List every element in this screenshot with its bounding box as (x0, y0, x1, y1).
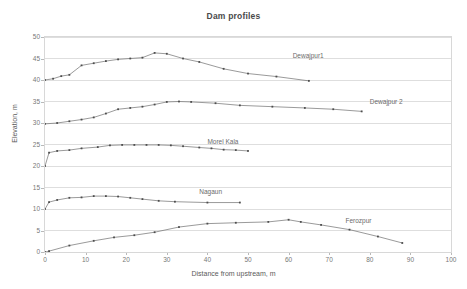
data-point-marker (288, 219, 290, 221)
data-point-marker (121, 144, 123, 146)
chart-container: Dam profiles Elevation, m Distance from … (0, 0, 467, 289)
y-axis-tick: 5 (14, 227, 40, 235)
data-point-marker (207, 202, 209, 204)
data-point-marker (56, 122, 58, 124)
data-point-marker (267, 221, 269, 223)
data-point-marker (377, 236, 379, 238)
data-point-marker (45, 79, 46, 81)
data-point-marker (133, 144, 135, 146)
data-point-marker (81, 147, 83, 149)
data-point-marker (174, 201, 176, 203)
data-point-marker (271, 106, 273, 108)
data-point-marker (178, 226, 180, 228)
series-label-ferozpur: Ferozpur (345, 217, 371, 224)
data-point-marker (68, 149, 70, 151)
x-axis-tick: 10 (71, 256, 101, 264)
data-point-marker (190, 101, 192, 103)
data-point-marker (117, 196, 119, 198)
data-point-marker (223, 68, 225, 70)
data-point-marker (133, 234, 135, 236)
data-point-marker (45, 123, 46, 125)
x-axis-tick: 70 (314, 256, 344, 264)
data-point-marker (207, 223, 209, 225)
y-axis-tick: 0 (14, 248, 40, 256)
data-point-marker (142, 106, 144, 108)
x-axis-tick: 0 (30, 256, 60, 264)
series-label-morel-kala: Morel Kala (207, 138, 238, 145)
data-point-marker (247, 73, 249, 75)
data-point-marker (117, 58, 119, 60)
data-point-marker (154, 104, 156, 106)
y-axis-tick: 20 (14, 162, 40, 170)
data-point-marker (48, 250, 50, 252)
data-point-marker (247, 150, 249, 152)
data-point-marker (93, 117, 95, 119)
data-point-marker (56, 199, 58, 201)
data-point-marker (81, 64, 83, 66)
y-axis-tick: 45 (14, 55, 40, 63)
data-point-marker (158, 144, 160, 146)
x-axis-tick: 80 (355, 256, 385, 264)
y-axis-tick: 40 (14, 76, 40, 84)
data-point-marker (68, 120, 70, 122)
data-point-marker (129, 197, 131, 199)
data-point-marker (93, 62, 95, 64)
chart-title: Dam profiles (0, 11, 467, 21)
x-axis-tick: 30 (152, 256, 182, 264)
x-axis-tick: 20 (111, 256, 141, 264)
data-point-marker (235, 149, 237, 151)
y-axis-tick: 35 (14, 98, 40, 106)
data-point-marker (239, 202, 241, 204)
data-point-marker (166, 53, 168, 55)
data-point-marker (109, 144, 111, 146)
data-point-marker (401, 242, 403, 244)
x-axis-tick: 90 (395, 256, 425, 264)
data-point-marker (129, 58, 131, 60)
data-point-marker (170, 144, 172, 146)
data-point-marker (113, 236, 115, 238)
series-line (45, 145, 248, 166)
data-point-marker (48, 201, 50, 203)
x-axis-tick: 50 (233, 256, 263, 264)
data-point-marker (276, 76, 278, 78)
data-point-marker (223, 149, 225, 151)
series-line (45, 102, 362, 124)
data-point-marker (93, 195, 95, 197)
data-point-marker (158, 200, 160, 202)
x-axis-tick: 100 (436, 256, 466, 264)
data-point-marker (45, 208, 46, 210)
data-point-marker (146, 144, 148, 146)
data-point-marker (60, 75, 62, 77)
series-label-dewajpur1: Dewajpur1 (293, 52, 324, 59)
x-axis-tick: 60 (274, 256, 304, 264)
data-point-marker (105, 195, 107, 197)
y-axis-tick: 10 (14, 205, 40, 213)
data-point-marker (178, 101, 180, 103)
data-point-marker (198, 147, 200, 149)
data-point-marker (81, 196, 83, 198)
data-point-marker (68, 197, 70, 199)
data-point-marker (300, 221, 302, 223)
data-point-marker (361, 110, 363, 112)
data-point-marker (129, 107, 131, 109)
data-point-marker (349, 229, 351, 231)
data-point-marker (68, 74, 70, 76)
data-point-marker (48, 152, 50, 154)
y-axis-tick: 25 (14, 141, 40, 149)
data-point-marker (142, 198, 144, 200)
data-point-marker (93, 240, 95, 242)
data-point-marker (45, 251, 46, 252)
data-point-marker (105, 60, 107, 62)
series-line (45, 196, 240, 209)
data-point-marker (211, 147, 213, 149)
series-line (45, 53, 309, 81)
data-point-marker (52, 78, 54, 80)
x-axis-tick: 40 (192, 256, 222, 264)
data-point-marker (142, 57, 144, 59)
data-point-marker (239, 104, 241, 106)
series-label-dewajpur-2: Dewajpur 2 (370, 98, 403, 105)
plot-svg (45, 37, 451, 252)
data-point-marker (215, 102, 217, 104)
y-axis-tick: 15 (14, 184, 40, 192)
y-axis-tick: 50 (14, 33, 40, 41)
